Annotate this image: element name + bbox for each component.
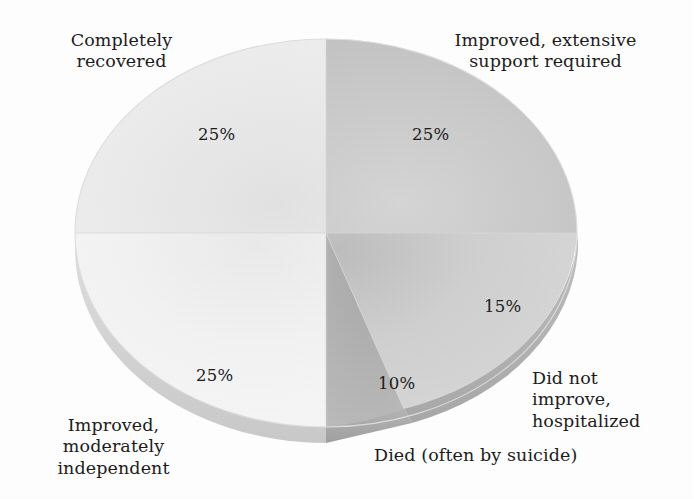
value-label-improved-extensive-support: 25%	[412, 125, 449, 144]
value-label-died-often-by-suicide: 10%	[378, 374, 415, 393]
label-completely-recovered: Completely recovered	[34, 30, 209, 73]
pie-slice-improved-moderate	[75, 233, 326, 427]
label-improved-extensive-support: Improved, extensive support required	[438, 30, 653, 73]
label-improved-moderately-independent: Improved, moderately independent	[26, 415, 201, 479]
label-did-not-improve-hospitalized: Did not improve, hospitalized	[532, 368, 682, 432]
value-label-improved-moderately-independent: 25%	[196, 366, 233, 385]
pie-chart-figure: Completely recovered Improved, extensive…	[0, 0, 694, 499]
value-label-completely-recovered: 25%	[198, 125, 235, 144]
label-died-often-by-suicide: Died (often by suicide)	[374, 445, 654, 466]
value-label-did-not-improve-hospitalized: 15%	[484, 297, 521, 316]
